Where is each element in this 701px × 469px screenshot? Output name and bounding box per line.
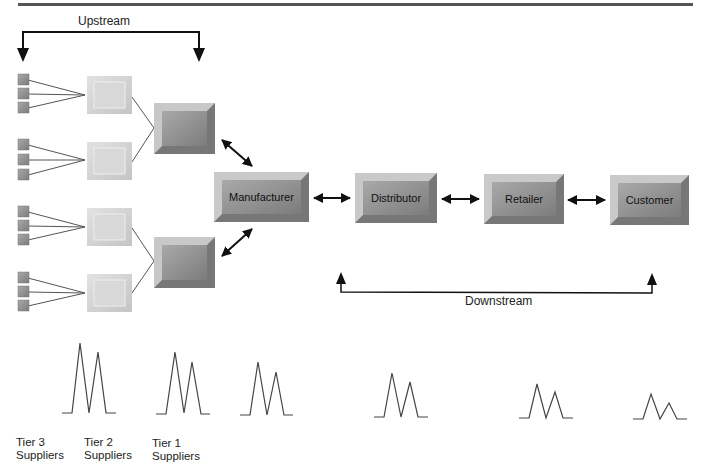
customer-node: Customer	[610, 175, 689, 225]
customer-label: Customer	[626, 194, 674, 206]
tier1-label: Tier 1 Suppliers	[152, 437, 200, 463]
tier3-line2: Suppliers	[16, 449, 64, 462]
waveform-customer	[633, 394, 687, 419]
retailer-label: Retailer	[505, 193, 543, 205]
tier3-label: Tier 3 Suppliers	[16, 436, 64, 462]
waveform-manufacturer	[240, 362, 293, 415]
distributor-node: Distributor	[355, 173, 437, 223]
tier3-suppliers	[28, 80, 85, 306]
tier1-boxes	[154, 103, 215, 288]
waveform-retailer	[519, 384, 573, 418]
tier3-line1: Tier 3	[16, 436, 64, 449]
demand-waveforms	[62, 343, 687, 419]
downstream-bracket	[336, 272, 657, 293]
waveform-tier2	[62, 343, 116, 413]
tier2-label: Tier 2 Suppliers	[84, 436, 132, 462]
upstream-label: Upstream	[78, 14, 130, 28]
tier2-to-tier1-links	[132, 97, 154, 293]
tier1-line1: Tier 1	[152, 437, 200, 450]
tier1-line2: Suppliers	[152, 450, 200, 463]
distributor-label: Distributor	[371, 192, 421, 204]
tier2-line2: Suppliers	[84, 449, 132, 462]
downstream-label: Downstream	[465, 294, 532, 308]
tier2-line1: Tier 2	[84, 436, 132, 449]
top-rule	[18, 3, 693, 6]
manufacturer-label: Manufacturer	[229, 191, 294, 203]
retailer-node: Retailer	[484, 174, 564, 224]
tier2-boxes	[87, 76, 132, 312]
tier3-boxes	[18, 74, 29, 311]
supply-chain-diagram: Manufacturer Distributor Retailer Custom…	[0, 0, 701, 469]
waveform-distributor	[374, 373, 428, 417]
upstream-bracket	[17, 32, 205, 62]
waveform-tier1	[156, 352, 210, 414]
manufacturer-node: Manufacturer	[214, 172, 309, 222]
